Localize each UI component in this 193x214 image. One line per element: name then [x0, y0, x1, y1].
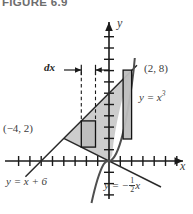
- curve-label-line-half: y = −12x: [104, 177, 140, 194]
- curve-label-cubic-exponent: 3: [162, 89, 166, 98]
- right-slice-rectangle: [123, 70, 132, 139]
- differential-label-dx: dx: [44, 61, 55, 73]
- line-half-suffix: x: [135, 179, 140, 191]
- point-label-neg4-2: (−4, 2): [3, 122, 33, 134]
- curve-label-cubic-text: y = x: [139, 91, 162, 103]
- dx-measurement: [64, 65, 109, 75]
- left-slice-rectangle: [81, 121, 95, 147]
- x-axis-label: x: [180, 159, 185, 174]
- line-half-prefix: y = −: [104, 179, 129, 191]
- y-axis-label: y: [117, 16, 122, 31]
- y-axis-arrowhead: [105, 22, 113, 31]
- shaded-region: [64, 71, 132, 161]
- curve-label-cubic: y = x3: [139, 89, 165, 103]
- curve-label-line-sum: y = x + 6: [6, 175, 47, 187]
- point-label-2-8: (2, 8): [144, 62, 168, 74]
- figure-container: FIGURE 6.9: [0, 0, 193, 214]
